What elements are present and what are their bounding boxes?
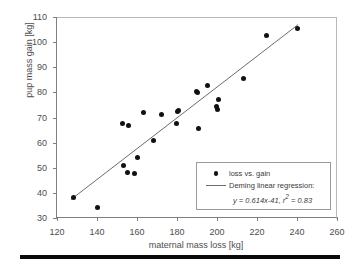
y-tick-label: 70 <box>37 113 47 123</box>
y-tick-label: 30 <box>37 213 47 223</box>
data-point <box>241 76 246 81</box>
x-tick: 240 <box>297 217 298 221</box>
x-tick: 160 <box>137 217 138 221</box>
data-point <box>135 155 140 160</box>
legend-equation: y = 0.614x-41, r2 = 0.83 <box>233 193 312 205</box>
y-tick-label: 90 <box>37 62 47 72</box>
data-point <box>196 126 201 131</box>
equation-tail: = 0.83 <box>289 196 312 205</box>
x-tick-label: 240 <box>289 227 304 237</box>
chart-figure: 30405060708090100110 1201401601802002202… <box>0 0 357 262</box>
x-tick-label: 160 <box>129 227 144 237</box>
x-axis-title: maternal mass loss [kg] <box>56 240 336 250</box>
x-tick: 200 <box>217 217 218 221</box>
data-point <box>216 97 221 102</box>
data-point <box>195 90 200 95</box>
data-point <box>176 108 181 113</box>
y-tick-label: 80 <box>37 87 47 97</box>
x-tick-label: 120 <box>49 227 64 237</box>
data-point <box>174 121 179 126</box>
y-tick-label: 110 <box>33 12 47 22</box>
x-tick: 220 <box>257 217 258 221</box>
data-point <box>159 112 164 117</box>
x-tick-label: 260 <box>329 227 344 237</box>
data-point <box>151 138 156 143</box>
data-point <box>126 123 131 128</box>
legend-item-regression: Deming linear regression: <box>203 181 314 190</box>
chart-legend: loss vs. gain Deming linear regression: … <box>196 162 331 210</box>
x-tick: 140 <box>97 217 98 221</box>
x-tick-label: 180 <box>169 227 184 237</box>
data-point <box>132 171 137 176</box>
x-tick-label: 220 <box>249 227 264 237</box>
x-tick: 260 <box>337 217 338 221</box>
legend-marker-icon <box>203 171 229 176</box>
legend-label-scatter: loss vs. gain <box>229 169 270 178</box>
y-tick-label: 50 <box>37 163 47 173</box>
bottom-rule <box>20 255 340 259</box>
y-tick-label: 60 <box>37 138 47 148</box>
y-tick-label: 40 <box>37 188 47 198</box>
legend-label-regression: Deming linear regression: <box>229 181 314 190</box>
data-point <box>71 195 76 200</box>
y-axis-title: pup mass gain [kg] <box>24 0 34 145</box>
plot-right-rule <box>336 17 337 219</box>
legend-item-scatter: loss vs. gain <box>203 169 270 178</box>
x-tick-label: 140 <box>89 227 104 237</box>
data-point <box>121 163 126 168</box>
data-point <box>205 83 210 88</box>
x-tick: 120 <box>57 217 58 221</box>
legend-line-icon <box>203 185 229 186</box>
y-tick-label: 100 <box>32 37 47 47</box>
data-point <box>295 26 300 31</box>
data-point <box>120 121 125 126</box>
equation-main: y = 0.614x-41, r <box>233 196 285 205</box>
data-point <box>264 33 269 38</box>
x-tick-label: 200 <box>209 227 224 237</box>
x-tick: 180 <box>177 217 178 221</box>
data-point <box>125 170 130 175</box>
